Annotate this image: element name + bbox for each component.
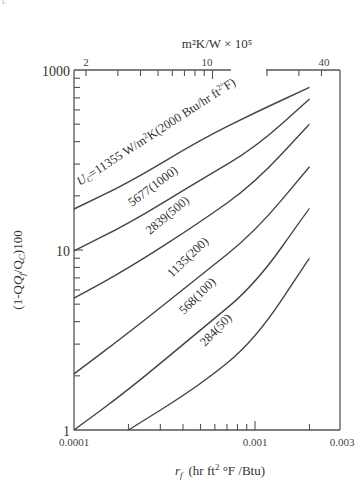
x-tick-0.0001: 0.0001 (59, 436, 89, 448)
plot-frame (74, 70, 340, 430)
top-axis-title: m²K/W × 10⁵ (182, 36, 252, 51)
y-title-c: )100 (10, 230, 25, 254)
rf-subscript: f (180, 470, 184, 480)
top-tick-40: 40 (319, 56, 331, 68)
curve-6 (129, 258, 310, 430)
x-tick-labels: 0.0001 0.001 0.003 (59, 436, 355, 448)
bottom-axis-ticks (128, 421, 309, 430)
curve-3 (74, 124, 310, 298)
y-tick-1000: 1000 (42, 64, 70, 79)
x-tick-0.003: 0.003 (330, 436, 355, 448)
curve-5 (74, 208, 310, 430)
curve-4 (74, 167, 310, 374)
top-tick-2: 2 (83, 56, 89, 68)
rf-units: (hr ft (189, 463, 216, 478)
y-title-b: /Q (10, 260, 25, 274)
rf-units-end: °F /Btu) (219, 463, 265, 478)
y-title-a: (1-Q (10, 284, 25, 309)
left-axis-ticks (74, 78, 83, 376)
curve1-b: =11355 W/m (86, 133, 149, 181)
top-tick-10: 10 (202, 56, 214, 68)
top-axis-ticks (86, 70, 321, 79)
bottom-axis-title: rf(hr ft2 °F /Btu) (175, 462, 265, 480)
y-tick-labels: 1000 10 1 (42, 64, 70, 439)
curve-label-568: 568(100) (176, 275, 218, 317)
x-tick-0.001: 0.001 (243, 436, 268, 448)
y-axis-title: (1-QQf/QC)100 (10, 230, 27, 309)
y-tick-10: 10 (56, 244, 70, 259)
top-x-tick-labels: 2 10 40 (83, 56, 330, 68)
chart: 1000 10 1 0.0001 0.001 0.003 2 10 40 m²K… (0, 0, 364, 490)
